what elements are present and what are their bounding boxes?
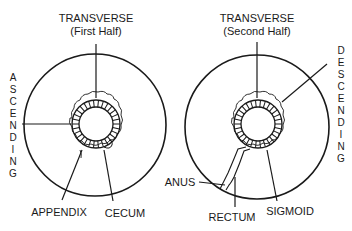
label-descending: D E S C E N D I N G [337, 45, 345, 164]
svg-text:A: A [10, 72, 17, 83]
descending-leader [282, 64, 327, 102]
label-transverse-second: TRANSVERSE [220, 12, 295, 24]
svg-text:N: N [9, 120, 16, 131]
svg-text:S: S [338, 69, 345, 80]
label-appendix: APPENDIX [31, 206, 87, 218]
svg-text:N: N [337, 105, 344, 116]
label-transverse-second-sub: (Second Half) [223, 25, 290, 37]
label-cecum: CECUM [105, 207, 145, 219]
label-sigmoid: SIGMOID [266, 205, 314, 217]
svg-text:C: C [337, 81, 344, 92]
svg-text:N: N [9, 156, 16, 167]
svg-text:G: G [337, 153, 345, 164]
svg-text:D: D [337, 117, 344, 128]
svg-text:D: D [337, 45, 344, 56]
svg-text:G: G [9, 168, 17, 179]
svg-text:E: E [338, 93, 345, 104]
label-transverse-first-sub: (First Half) [70, 25, 121, 37]
left-outer-circle [24, 54, 166, 196]
label-transverse-first: TRANSVERSE [59, 12, 134, 24]
svg-text:N: N [337, 141, 344, 152]
label-anus: ANUS [165, 176, 196, 188]
svg-text:I: I [12, 144, 15, 155]
label-ascending: A S C E N D I N G [9, 72, 17, 179]
svg-text:E: E [338, 57, 345, 68]
svg-text:D: D [9, 132, 16, 143]
svg-text:S: S [10, 84, 17, 95]
sigmoid-leader [267, 150, 277, 201]
colon-diagram: TRANSVERSE (First Half) A S C E N D I N … [0, 0, 352, 231]
svg-text:I: I [340, 129, 343, 140]
cecum-leader [104, 150, 113, 201]
right-colon-diagram: TRANSVERSE (Second Half) D E S C E N D I… [165, 12, 345, 223]
svg-text:E: E [10, 108, 17, 119]
left-colon-diagram: TRANSVERSE (First Half) A S C E N D I N … [9, 12, 166, 219]
svg-text:C: C [9, 96, 16, 107]
label-rectum: RECTUM [208, 211, 255, 223]
